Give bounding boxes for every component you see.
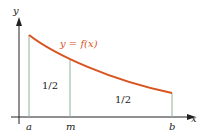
x-axis-label: x [191,113,197,124]
y-axis-label: y [12,5,19,16]
point-a-label: a [26,121,32,132]
area-bisection-diagram: y x a m b y = f(x) 1/2 1/2 [0,0,204,137]
y-axis-arrow-icon [16,17,22,26]
region-left-label: 1/2 [42,80,58,91]
point-m-label: m [66,121,75,132]
curve-label: y = f(x) [59,38,98,49]
point-b-label: b [169,121,175,132]
region-right-label: 1/2 [115,94,131,105]
